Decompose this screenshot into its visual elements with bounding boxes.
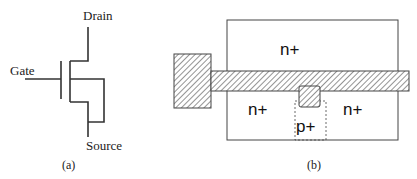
caption-a: (a) — [62, 158, 75, 172]
region-top-label: n+ — [280, 40, 299, 59]
transistor-symbol — [25, 27, 104, 137]
region-right-label: n+ — [343, 100, 362, 119]
region-left-label: n+ — [248, 100, 267, 119]
gate-tab — [299, 86, 320, 107]
gate-contact-pad — [174, 54, 211, 108]
drain-lead — [70, 27, 88, 61]
source-lead — [70, 102, 88, 137]
caption-b: (b) — [307, 158, 321, 172]
figure: Drain Gate Source (a) n+ n+ n+ p+ (b) — [0, 0, 417, 179]
source-label: Source — [86, 138, 122, 153]
gate-label: Gate — [10, 63, 35, 78]
body-connection — [70, 79, 104, 122]
drain-label: Drain — [83, 8, 113, 23]
region-p-label: p+ — [296, 117, 315, 136]
